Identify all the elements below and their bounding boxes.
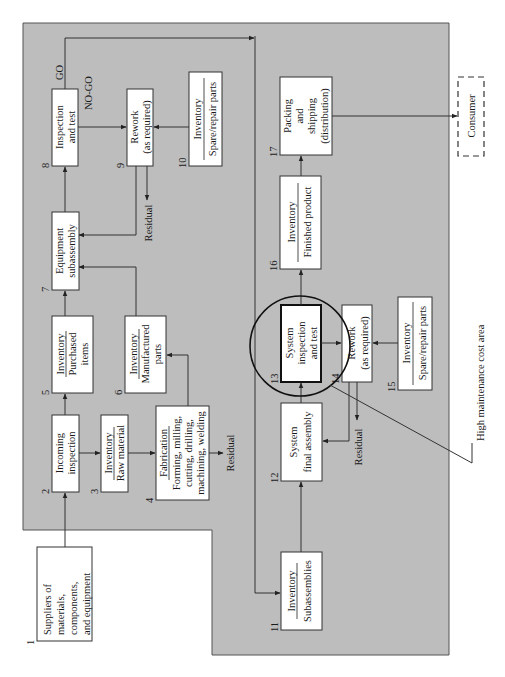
- svg-text:and equipment: and equipment: [81, 573, 92, 635]
- callout-label: High maintenance cost area: [475, 324, 486, 441]
- svg-text:Suppliers of: Suppliers of: [42, 583, 53, 635]
- svg-text:subassembly: subassembly: [66, 223, 77, 277]
- svg-text:Inventory: Inventory: [55, 333, 66, 375]
- svg-text:Inventory: Inventory: [128, 333, 139, 375]
- svg-text:items: items: [79, 343, 90, 366]
- svg-text:15: 15: [386, 382, 397, 393]
- svg-text:Inventory: Inventory: [103, 432, 114, 474]
- svg-text:Spare/repair parts: Spare/repair parts: [207, 82, 218, 156]
- svg-text:16: 16: [268, 261, 279, 272]
- residual-label-4: Residual: [225, 435, 236, 472]
- svg-text:Spare/repair parts: Spare/repair parts: [417, 306, 428, 380]
- svg-text:Inspection: Inspection: [54, 104, 65, 148]
- svg-text:(as required): (as required): [359, 316, 371, 370]
- svg-text:System: System: [288, 427, 299, 458]
- svg-text:final assembly: final assembly: [302, 411, 313, 473]
- svg-text:shipping: shipping: [306, 97, 317, 134]
- svg-text:12: 12: [269, 473, 280, 484]
- svg-text:2: 2: [40, 489, 51, 494]
- go-label: GO: [54, 64, 65, 80]
- svg-text:Rework: Rework: [129, 110, 140, 144]
- svg-text:Consumer: Consumer: [466, 94, 477, 138]
- svg-text:Manufactured: Manufactured: [140, 324, 151, 384]
- svg-text:machining, welding: machining, welding: [195, 411, 206, 495]
- svg-text:Packing: Packing: [282, 98, 293, 133]
- svg-text:and test: and test: [308, 327, 319, 359]
- svg-text:Raw material: Raw material: [115, 425, 126, 481]
- node-supplier: 1 Suppliers of materials, components, an…: [25, 547, 92, 645]
- svg-text:10: 10: [177, 158, 188, 169]
- svg-text:Forming, milling,: Forming, milling,: [171, 416, 182, 490]
- residual-label-14: Residual: [353, 429, 364, 466]
- svg-text:13: 13: [269, 374, 280, 385]
- svg-text:and test: and test: [66, 111, 77, 143]
- svg-text:Incoming: Incoming: [54, 432, 65, 473]
- svg-text:Inventory: Inventory: [286, 570, 297, 612]
- svg-text:components,: components,: [68, 582, 79, 635]
- svg-text:inspection: inspection: [66, 431, 77, 475]
- node-number: 1: [25, 640, 36, 645]
- svg-text:9: 9: [115, 163, 126, 168]
- svg-text:(distribution): (distribution): [319, 88, 331, 144]
- svg-text:Subassemblies: Subassemblies: [302, 560, 313, 622]
- svg-text:17: 17: [268, 147, 279, 158]
- svg-text:Purchased: Purchased: [67, 332, 78, 376]
- svg-text:Fabrication: Fabrication: [158, 428, 169, 477]
- svg-text:materials,: materials,: [55, 594, 66, 635]
- svg-text:7: 7: [40, 287, 51, 292]
- svg-text:Equipment: Equipment: [54, 228, 65, 274]
- svg-text:inspection: inspection: [296, 321, 307, 365]
- svg-text:8: 8: [40, 163, 51, 168]
- svg-text:cutting, drilling,: cutting, drilling,: [183, 419, 194, 487]
- nogo-label: NO-GO: [83, 76, 94, 110]
- svg-text:6: 6: [113, 390, 124, 395]
- node-consumer: Consumer: [458, 77, 484, 156]
- svg-text:and: and: [294, 108, 305, 124]
- maintenance-flow-diagram: 1 Suppliers of materials, components, an…: [0, 0, 505, 677]
- svg-text:3: 3: [89, 489, 100, 494]
- svg-text:Inventory: Inventory: [192, 98, 203, 140]
- svg-text:4: 4: [144, 497, 155, 503]
- svg-text:Inventory: Inventory: [286, 201, 297, 243]
- residual-label-9: Residual: [143, 205, 154, 242]
- svg-text:System: System: [284, 328, 295, 359]
- svg-text:(as required): (as required): [141, 100, 153, 154]
- svg-text:Inventory: Inventory: [401, 322, 412, 364]
- svg-text:5: 5: [40, 390, 51, 395]
- svg-text:parts: parts: [152, 344, 163, 364]
- svg-text:11: 11: [269, 622, 280, 632]
- svg-text:Finished product: Finished product: [302, 186, 313, 257]
